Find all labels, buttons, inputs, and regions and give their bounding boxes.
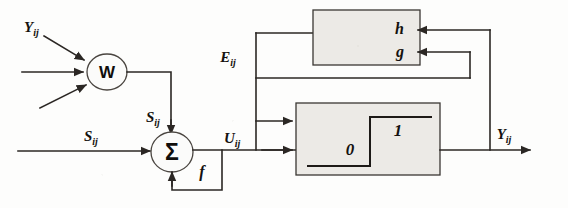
adaptation-box-label-h: h xyxy=(395,20,404,37)
label-potential-u: Uij xyxy=(224,130,241,149)
weight-node-inputs xyxy=(22,36,86,108)
label-error-e: Eij xyxy=(219,49,236,68)
label-output-y: Yij xyxy=(497,126,512,145)
threshold-high-label: 1 xyxy=(394,121,403,140)
threshold-box-rect xyxy=(296,103,440,175)
block-diagram: W Σ f xyxy=(0,0,568,208)
summation-node-glyph: Σ xyxy=(165,139,179,165)
threshold-low-label: 0 xyxy=(346,140,355,159)
label-state-s-top: Sij xyxy=(146,109,160,128)
input-arrow-diagonal-lower xyxy=(40,85,86,108)
weight-node-glyph: W xyxy=(99,63,116,82)
feedback-function-label: f xyxy=(199,163,206,181)
input-arrow-y-diagonal xyxy=(44,36,84,60)
adaptation-box-label-g: g xyxy=(395,43,404,61)
label-input-y: Yij xyxy=(24,19,39,38)
label-state-s-left: Sij xyxy=(84,128,98,147)
diagram-canvas: W Σ f xyxy=(0,0,568,208)
